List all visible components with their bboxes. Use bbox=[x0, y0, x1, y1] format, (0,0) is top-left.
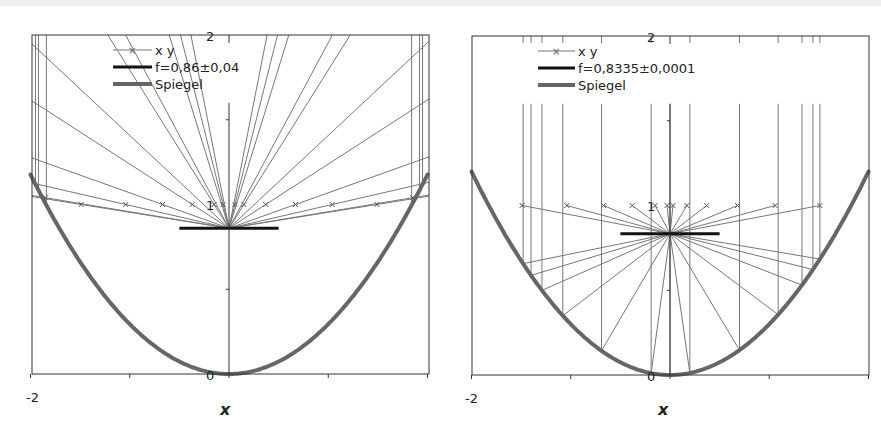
y-tick-0: 0 bbox=[647, 369, 655, 384]
data-markers bbox=[520, 203, 823, 208]
legend-xy: x y bbox=[578, 44, 598, 59]
y-tick-1: 1 bbox=[647, 199, 655, 214]
svg-text:×: × bbox=[128, 45, 136, 56]
svg-text:×: × bbox=[552, 46, 560, 57]
legend-mirror: Spiegel bbox=[578, 78, 626, 93]
y-tick-2: 2 bbox=[206, 29, 214, 44]
legend-mirror: Spiegel bbox=[155, 77, 203, 92]
y-tick-2: 2 bbox=[647, 30, 655, 45]
legend-focus: f=0,8335±0,0001 bbox=[578, 61, 695, 76]
x-axis-label: x bbox=[219, 400, 231, 419]
x-tick-min: -2 bbox=[465, 391, 478, 406]
x-tick-min: -2 bbox=[26, 390, 39, 405]
legend: × x y f=0,8335±0,0001 Spiegel bbox=[538, 44, 695, 93]
legend: × x y f=0,86±0,04 Spiegel bbox=[113, 43, 239, 92]
chart-left: × x y f=0,86±0,04 Spiegel 2 1 0 -2 x bbox=[26, 29, 429, 419]
chart-right: × x y f=0,8335±0,0001 Spiegel 2 1 0 -2 x bbox=[465, 30, 869, 419]
y-tick-0: 0 bbox=[206, 368, 214, 383]
figure: × x y f=0,86±0,04 Spiegel 2 1 0 -2 x × x… bbox=[0, 0, 881, 439]
x-axis-label: x bbox=[657, 400, 669, 419]
y-tick-1: 1 bbox=[206, 198, 214, 213]
legend-xy: x y bbox=[155, 43, 175, 58]
axes bbox=[31, 35, 430, 378]
legend-focus: f=0,86±0,04 bbox=[155, 60, 239, 75]
